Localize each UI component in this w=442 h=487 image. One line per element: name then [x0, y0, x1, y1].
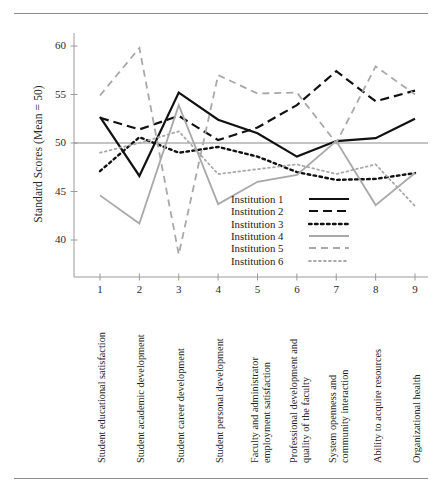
category-label-line2: employment satisfaction	[260, 357, 272, 463]
x-tick-label: 5	[246, 283, 270, 295]
x-tick-label: 9	[403, 283, 427, 295]
x-tick-label: 8	[364, 283, 388, 295]
category-label-line1: Faculty and administrator	[249, 357, 260, 463]
y-tick-label: 60	[36, 39, 66, 51]
category-label-line1: Student academic development	[135, 334, 146, 463]
category-label: System openness andcommunity interaction	[327, 369, 350, 463]
category-label-line2: quality of the faculty	[299, 339, 311, 463]
legend-swatch-dotted-gray	[308, 256, 350, 266]
y-tick-label: 55	[36, 88, 66, 100]
category-label: Student personal development	[214, 338, 226, 463]
category-label-line1: Student personal development	[214, 338, 225, 463]
x-tick-label: 4	[206, 283, 230, 295]
y-tick-label: 50	[36, 136, 66, 148]
legend-item-5[interactable]: Institution 5	[231, 242, 361, 254]
legend-swatch-solid-gray	[308, 231, 350, 241]
category-label-line1: Student educational satisfaction	[96, 332, 107, 463]
category-label-line1: Professional development and	[288, 339, 299, 463]
y-tick-label: 40	[36, 233, 66, 245]
x-tick-label: 6	[285, 283, 309, 295]
category-label: Student career development	[175, 348, 187, 463]
legend-label: Institution 5	[231, 242, 305, 254]
legend-label: Institution 3	[231, 218, 305, 230]
legend-item-1[interactable]: Institution 1	[231, 193, 361, 205]
category-label: Ability to acquire resources	[372, 349, 384, 463]
category-label: Faculty and administratoremployment sati…	[249, 357, 272, 463]
legend-label: Institution 4	[231, 230, 305, 242]
legend-item-4[interactable]: Institution 4	[231, 230, 361, 242]
legend-swatch-dashed-black	[308, 206, 350, 216]
legend-item-6[interactable]: Institution 6	[231, 254, 361, 266]
category-label: Professional development andquality of t…	[288, 339, 311, 463]
x-tick-label: 3	[167, 283, 191, 295]
category-label-line1: Student career development	[175, 348, 186, 463]
category-label: Student academic development	[135, 334, 147, 463]
figure-container: Standard Scores (Mean = 50) 6055504540 1…	[0, 0, 442, 487]
category-label-line1: Organizational health	[411, 374, 422, 463]
legend-swatch-dotted-black	[308, 219, 350, 229]
category-label-line2: community interaction	[339, 369, 351, 463]
legend-item-2[interactable]: Institution 2	[231, 205, 361, 217]
x-tick-label: 2	[127, 283, 151, 295]
category-label-line1: System openness and	[327, 375, 338, 463]
legend-label: Institution 2	[231, 205, 305, 217]
legend-label: Institution 6	[231, 255, 305, 267]
legend-label: Institution 1	[231, 193, 305, 205]
x-tick-label: 7	[324, 283, 348, 295]
category-label: Student educational satisfaction	[96, 332, 108, 463]
legend: Institution 1Institution 2Institution 3I…	[231, 193, 361, 267]
category-label: Organizational health	[411, 374, 423, 463]
legend-item-3[interactable]: Institution 3	[231, 218, 361, 230]
category-label-line1: Ability to acquire resources	[372, 349, 383, 463]
x-tick-label: 1	[88, 283, 112, 295]
legend-swatch-dashed-gray	[308, 243, 350, 253]
series-line-1	[100, 93, 415, 176]
y-tick-label: 45	[36, 185, 66, 197]
series-line-2	[100, 71, 415, 140]
legend-swatch-solid-black	[308, 194, 350, 204]
